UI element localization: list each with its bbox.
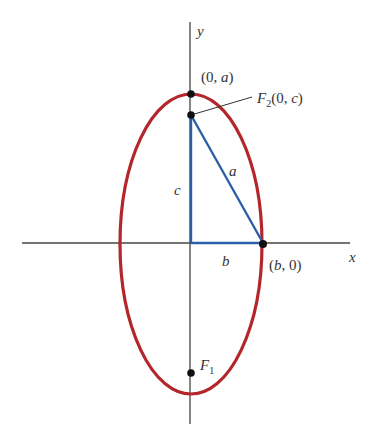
vertex-right-label: (b, 0) bbox=[269, 257, 302, 274]
vertex-top-label: (0, a) bbox=[201, 69, 234, 86]
side-a-label: a bbox=[229, 163, 237, 179]
side-b-label: b bbox=[222, 253, 230, 269]
focus-bottom-label: F1 bbox=[199, 357, 214, 376]
x-axis-label: x bbox=[348, 249, 356, 265]
triangle-side-a bbox=[191, 115, 263, 243]
vertex-right-point bbox=[259, 240, 267, 248]
focus-top-point bbox=[187, 111, 195, 119]
focus-top-leader-line bbox=[191, 97, 252, 115]
y-axis-label: y bbox=[195, 23, 204, 39]
side-c-label: c bbox=[174, 182, 181, 198]
ellipse-diagram: y x (0, a) F2(0, c) a c b (b, 0) F1 bbox=[0, 0, 382, 444]
focus-bottom-point bbox=[187, 369, 195, 377]
vertex-top-point bbox=[187, 90, 195, 98]
focus-top-label: F2(0, c) bbox=[256, 90, 303, 109]
